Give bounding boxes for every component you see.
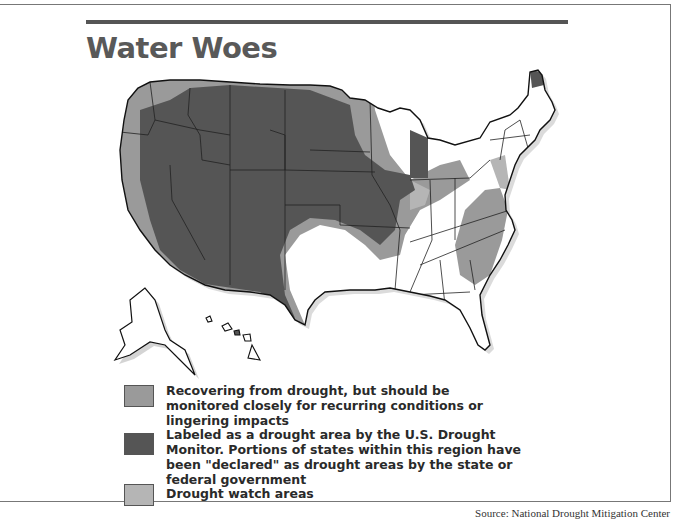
alaska	[115, 288, 199, 379]
legend-label-watch: Drought watch areas	[166, 486, 526, 501]
legend-item-recovering: Recovering from drought, but should be m…	[124, 383, 526, 428]
legend-swatch-recovering	[124, 385, 154, 407]
legend-label-drought: Labeled as a drought area by the U.S. Dr…	[166, 427, 526, 487]
legend-item-drought: Labeled as a drought area by the U.S. Dr…	[124, 427, 526, 487]
legend-label-recovering: Recovering from drought, but should be m…	[166, 383, 526, 428]
legend-item-watch: Drought watch areas	[124, 482, 526, 506]
legend-swatch-drought	[124, 433, 154, 455]
title-rule	[86, 20, 568, 24]
source-credit: Source: National Drought Mitigation Cent…	[475, 507, 670, 519]
us-drought-map	[110, 60, 570, 380]
legend-swatch-watch	[124, 484, 154, 506]
